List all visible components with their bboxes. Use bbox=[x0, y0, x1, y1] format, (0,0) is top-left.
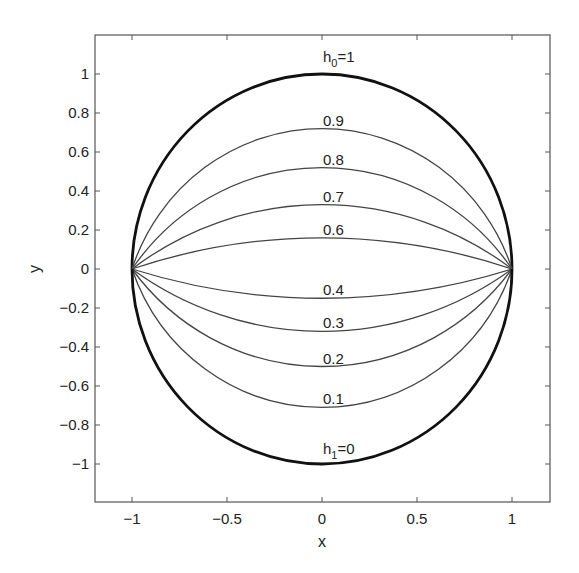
y-tick-label: −1 bbox=[72, 455, 89, 472]
y-tick-label: −0.8 bbox=[59, 416, 89, 433]
curve-0-3 bbox=[132, 269, 512, 331]
y-tick-label: 0.8 bbox=[68, 104, 89, 121]
curve-0-1 bbox=[132, 269, 512, 407]
curve-h0-1 bbox=[132, 74, 512, 269]
curve-label: 0.6 bbox=[323, 221, 344, 238]
curve-label: 0.7 bbox=[323, 188, 344, 205]
curve-label: 0.2 bbox=[323, 350, 344, 367]
curve-0-4 bbox=[132, 269, 512, 298]
y-tick-label: −0.2 bbox=[59, 299, 89, 316]
curve-labels-layer: h0=10.90.80.70.60.40.30.20.1h1=0 bbox=[323, 48, 355, 461]
x-axis-label: x bbox=[318, 533, 326, 550]
y-tick-label: −0.4 bbox=[59, 338, 89, 355]
curve-label: 0.4 bbox=[323, 281, 344, 298]
y-tick-label: 0 bbox=[81, 260, 89, 277]
curve-0-8 bbox=[132, 168, 512, 269]
plot-frame bbox=[95, 35, 550, 502]
y-tick-label: 0.2 bbox=[68, 221, 89, 238]
curves-layer bbox=[132, 74, 512, 464]
curve-0-6 bbox=[132, 238, 512, 269]
curve-0-9 bbox=[132, 129, 512, 269]
curve-label: 0.8 bbox=[323, 151, 344, 168]
curve-label: 0.3 bbox=[323, 314, 344, 331]
y-axis-label: y bbox=[26, 265, 43, 273]
y-tick-label: −0.6 bbox=[59, 377, 89, 394]
curve-label: h1=0 bbox=[323, 440, 355, 461]
curve-label: h0=1 bbox=[323, 48, 355, 69]
curve-0-7 bbox=[132, 205, 512, 269]
chart: −1−0.500.51−1−0.8−0.6−0.4−0.200.20.40.60… bbox=[0, 0, 579, 573]
x-tick-label: −1 bbox=[123, 510, 140, 527]
y-tick-label: 1 bbox=[81, 65, 89, 82]
curve-label: 0.9 bbox=[323, 112, 344, 129]
x-tick-label: −0.5 bbox=[212, 510, 242, 527]
y-tick-label: 0.6 bbox=[68, 143, 89, 160]
x-tick-label: 0 bbox=[318, 510, 326, 527]
x-tick-label: 0.5 bbox=[407, 510, 428, 527]
x-tick-label: 1 bbox=[508, 510, 516, 527]
y-tick-label: 0.4 bbox=[68, 182, 89, 199]
curve-label: 0.1 bbox=[323, 390, 344, 407]
